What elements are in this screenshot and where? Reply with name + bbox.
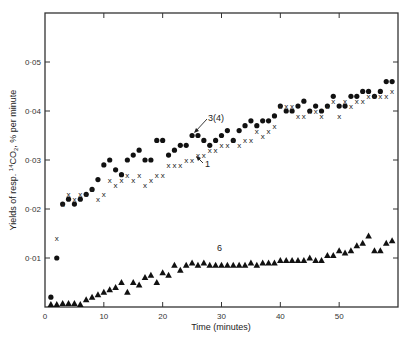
triangle-marker bbox=[183, 262, 190, 268]
x-marker: x bbox=[384, 92, 388, 101]
circle-marker bbox=[225, 128, 230, 133]
triangle-marker bbox=[130, 279, 137, 285]
x-marker: x bbox=[67, 190, 71, 199]
triangle-marker bbox=[59, 300, 66, 306]
circle-marker bbox=[48, 295, 53, 300]
x-marker: x bbox=[114, 181, 118, 190]
x-marker: x bbox=[231, 136, 235, 145]
triangle-marker bbox=[283, 257, 290, 263]
triangle-marker bbox=[371, 247, 378, 253]
triangle-marker bbox=[306, 255, 313, 261]
circle-marker bbox=[242, 123, 247, 128]
triangle-marker bbox=[224, 262, 231, 268]
triangle-marker bbox=[336, 247, 343, 253]
triangle-marker bbox=[153, 279, 160, 285]
triangle-marker bbox=[142, 274, 149, 280]
triangle-marker bbox=[254, 262, 261, 268]
circle-marker bbox=[272, 113, 277, 118]
triangle-marker bbox=[365, 232, 372, 238]
x-marker: x bbox=[225, 141, 229, 150]
triangle-marker bbox=[48, 301, 55, 307]
triangle-marker bbox=[348, 247, 355, 253]
x-tick-label: 30 bbox=[217, 312, 226, 321]
x-marker: x bbox=[331, 97, 335, 106]
tick-labels: 010203040500·010·020·030·040·05 bbox=[25, 58, 344, 321]
triangle-marker bbox=[289, 257, 296, 263]
y-tick-label: 0·05 bbox=[25, 58, 42, 67]
triangle-marker bbox=[83, 296, 90, 302]
x-tick-label: 0 bbox=[43, 312, 48, 321]
x-marker: x bbox=[155, 171, 159, 180]
circle-marker bbox=[337, 104, 342, 109]
x-marker: x bbox=[378, 92, 382, 101]
triangle-marker bbox=[136, 281, 143, 287]
circle-marker bbox=[54, 255, 59, 260]
x-tick-label: 10 bbox=[99, 312, 108, 321]
x-marker: x bbox=[255, 127, 259, 136]
circle-marker bbox=[160, 138, 165, 143]
circle-marker bbox=[348, 94, 353, 99]
annotation-series-3-4: 3(4) bbox=[208, 113, 224, 123]
x-marker: x bbox=[90, 185, 94, 194]
triangle-marker bbox=[389, 237, 396, 243]
x-marker: x bbox=[96, 195, 100, 204]
triangle-marker bbox=[218, 262, 225, 268]
triangle-marker bbox=[95, 291, 102, 297]
x-marker: x bbox=[355, 97, 359, 106]
circle-marker bbox=[137, 148, 142, 153]
x-axis-title: Time (minutes) bbox=[191, 322, 251, 332]
triangle-marker bbox=[312, 257, 319, 263]
triangle-marker bbox=[195, 262, 202, 268]
circle-marker bbox=[166, 153, 171, 158]
x-marker: x bbox=[161, 171, 165, 180]
x-marker: x bbox=[167, 161, 171, 170]
triangle-marker bbox=[148, 272, 155, 278]
x-marker: x bbox=[149, 176, 153, 185]
triangle-marker bbox=[124, 289, 131, 295]
y-tick-label: 0·04 bbox=[25, 107, 42, 116]
x-marker: x bbox=[278, 102, 282, 111]
circle-marker bbox=[390, 79, 395, 84]
x-marker: x bbox=[78, 190, 82, 199]
triangle-marker bbox=[165, 272, 172, 278]
x-marker: x bbox=[284, 102, 288, 111]
x-marker: x bbox=[290, 102, 294, 111]
y-tick-label: 0·01 bbox=[25, 254, 42, 263]
circle-marker bbox=[184, 143, 189, 148]
triangle-marker bbox=[171, 262, 178, 268]
triangle-marker bbox=[324, 252, 331, 258]
annotation-series-6: 6 bbox=[217, 243, 222, 253]
x-marker: x bbox=[237, 141, 241, 150]
x-marker: x bbox=[178, 161, 182, 170]
circle-marker bbox=[195, 133, 200, 138]
triangle-marker bbox=[71, 300, 78, 306]
x-marker: x bbox=[367, 92, 371, 101]
circle-marker bbox=[213, 138, 218, 143]
x-marker: x bbox=[272, 122, 276, 131]
x-marker: x bbox=[143, 181, 147, 190]
x-marker: x bbox=[296, 112, 300, 121]
x-marker: x bbox=[337, 112, 341, 121]
circle-marker bbox=[113, 167, 118, 172]
triangle-marker bbox=[53, 301, 60, 307]
triangle-marker bbox=[248, 259, 255, 265]
triangle-marker bbox=[159, 269, 166, 275]
circle-marker bbox=[148, 157, 153, 162]
triangle-marker bbox=[271, 259, 278, 265]
triangle-marker bbox=[201, 259, 208, 265]
triangle-marker bbox=[112, 284, 119, 290]
x-marker: x bbox=[190, 156, 194, 165]
triangle-marker bbox=[65, 300, 72, 306]
circle-marker bbox=[295, 104, 300, 109]
circle-marker bbox=[131, 153, 136, 158]
annotation-series-1: 1 bbox=[205, 159, 210, 169]
x-marker: x bbox=[108, 176, 112, 185]
x-marker: x bbox=[172, 161, 176, 170]
triangle-marker bbox=[89, 294, 96, 300]
x-marker: x bbox=[308, 107, 312, 116]
circle-marker bbox=[301, 99, 306, 104]
triangle-marker bbox=[359, 240, 366, 246]
triangle-marker bbox=[265, 259, 272, 265]
x-marker: x bbox=[361, 97, 365, 106]
triangle-marker bbox=[383, 240, 390, 246]
